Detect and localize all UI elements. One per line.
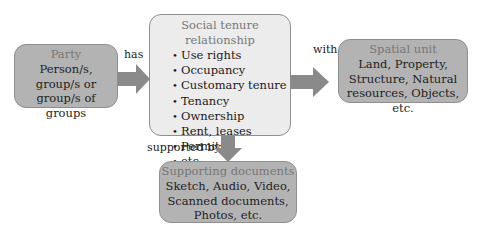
spatial-unit-line: Land, Property, [339,57,467,72]
right-arrow-icon [291,67,329,97]
down-arrow-icon [214,136,242,162]
supporting-documents-line: Sketch, Audio, Video, [160,179,296,194]
social-tenure-title: Social tenure relationship [150,18,290,48]
party-line: group/s of groups [15,91,117,120]
spatial-unit-box: Spatial unit Land, Property, Structure, … [338,39,468,103]
supporting-documents-line: Photos, etc. [160,208,296,223]
supporting-documents-title: Supporting documents [160,164,296,179]
supported-by-label: supported by [147,141,220,154]
list-item: Occupancy [172,63,290,78]
list-item: Customary tenure [172,78,290,93]
list-item: Tenancy [172,94,290,109]
right-arrow-icon [118,64,150,94]
social-tenure-box: Social tenure relationship Use rights Oc… [149,14,291,136]
spatial-unit-line: resources, Objects, etc. [339,86,467,115]
party-box: Party Person/s, group/s or group/s of gr… [14,44,118,108]
supporting-documents-line: Scanned documents, [160,194,296,209]
supporting-documents-box: Supporting documents Sketch, Audio, Vide… [159,161,297,223]
with-label: with [313,43,337,56]
party-line: Person/s, [15,62,117,77]
has-label: has [124,48,143,61]
list-item: Ownership [172,109,290,124]
party-line: group/s or [15,77,117,92]
spatial-unit-title: Spatial unit [339,42,467,57]
spatial-unit-line: Structure, Natural [339,72,467,87]
list-item: Use rights [172,48,290,63]
party-title: Party [15,47,117,62]
